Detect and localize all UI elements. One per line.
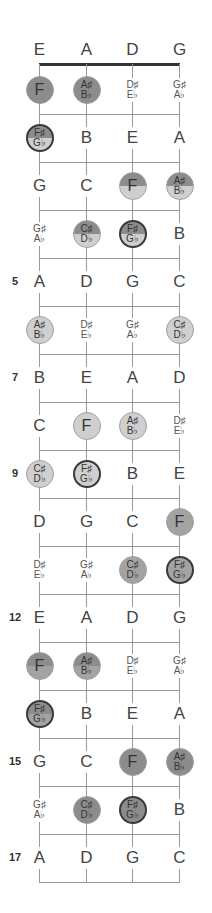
note-name: A xyxy=(174,129,185,147)
highlighted-note-dot: F xyxy=(73,412,101,440)
note-cell: B xyxy=(115,456,151,492)
note-cell: E xyxy=(22,600,58,636)
highlighted-note-dot: C♯D♭ xyxy=(73,796,101,824)
note-label-group: C xyxy=(80,751,92,773)
fret-line-7 xyxy=(39,402,180,403)
note-cell: F♯G♭ xyxy=(22,696,58,732)
note-cell: G♯A♭ xyxy=(115,312,151,348)
note-name: E xyxy=(127,129,138,147)
note-cell: A xyxy=(22,264,58,300)
note-cell: A xyxy=(115,360,151,396)
note-name-enharmonic: A♭ xyxy=(34,810,46,820)
note-label-group: B xyxy=(127,463,138,485)
note-name-enharmonic: G♭ xyxy=(126,810,139,820)
note-label-group: G♯A♭ xyxy=(80,558,93,582)
note-label-group: A xyxy=(174,127,185,149)
highlighted-note-dot: A♯B♭ xyxy=(73,652,101,680)
note-name-enharmonic: G♭ xyxy=(33,714,46,724)
highlighted-note-dot: F xyxy=(26,652,54,680)
note-name: B xyxy=(81,705,92,723)
note-name-enharmonic: B♭ xyxy=(34,330,46,340)
note-label-group: G xyxy=(126,847,139,869)
note-name: G xyxy=(33,177,46,195)
note-cell: G♯A♭ xyxy=(162,72,198,108)
note-label-group: E xyxy=(81,367,92,389)
fret-line-15 xyxy=(39,786,180,787)
note-cell: B xyxy=(162,216,198,252)
note-label-group: D xyxy=(126,39,138,61)
fret-line-5 xyxy=(39,306,180,307)
note-cell: D♯E♭ xyxy=(69,312,105,348)
highlighted-note-dot: A♯B♭ xyxy=(166,172,194,200)
note-cell: G xyxy=(22,168,58,204)
note-label-group: D♯E♭ xyxy=(33,558,45,582)
note-label-group: G♯A♭ xyxy=(126,318,139,342)
note-cell: D xyxy=(69,840,105,876)
note-name: F xyxy=(175,513,185,531)
note-cell: D xyxy=(22,504,58,540)
highlighted-note-dot: C♯D♭ xyxy=(119,556,147,584)
note-name-enharmonic: A♭ xyxy=(81,570,93,580)
fret-line-2 xyxy=(39,162,180,163)
note-label-group: D♯E♭ xyxy=(80,318,92,342)
highlighted-note-dot: F xyxy=(119,172,147,200)
note-label-group: E xyxy=(174,463,185,485)
highlighted-note-dot: F♯G♭ xyxy=(119,220,147,248)
note-name: C xyxy=(33,417,45,435)
note-name-enharmonic: B♭ xyxy=(81,666,93,676)
note-name-enharmonic: B♭ xyxy=(81,90,93,100)
note-cell: F xyxy=(22,648,58,684)
note-name: A xyxy=(34,273,45,291)
note-name: E xyxy=(34,609,45,627)
highlighted-note-dot: A♯B♭ xyxy=(119,412,147,440)
note-name: C xyxy=(173,849,185,867)
note-name: C xyxy=(80,753,92,771)
note-label-group: A xyxy=(174,703,185,725)
note-cell: D xyxy=(162,360,198,396)
note-name: A xyxy=(127,369,138,387)
note-cell: D xyxy=(69,264,105,300)
note-label-group: E xyxy=(127,703,138,725)
note-label-group: D xyxy=(173,367,185,389)
note-name-enharmonic: E♭ xyxy=(127,90,139,100)
note-cell: A♯B♭ xyxy=(162,168,198,204)
note-cell: B xyxy=(162,792,198,828)
note-cell: F xyxy=(115,168,151,204)
note-cell: F♯G♭ xyxy=(69,456,105,492)
note-name-enharmonic: D♭ xyxy=(80,810,92,820)
note-name: D xyxy=(33,513,45,531)
highlighted-note-dot: F xyxy=(119,748,147,776)
note-name: G xyxy=(173,609,186,627)
fret-line-4 xyxy=(39,258,180,259)
note-cell: G xyxy=(162,600,198,636)
note-name-enharmonic: B♭ xyxy=(174,762,186,772)
note-name: F xyxy=(128,753,138,771)
note-name: E xyxy=(174,465,185,483)
note-label-group: D♯E♭ xyxy=(173,414,185,438)
note-cell: C xyxy=(162,840,198,876)
note-label-group: B xyxy=(34,367,45,389)
note-name-enharmonic: E♭ xyxy=(34,570,46,580)
note-name: G xyxy=(80,513,93,531)
note-name-enharmonic: B♭ xyxy=(127,426,139,436)
note-label-group: E xyxy=(127,127,138,149)
note-name: B xyxy=(34,369,45,387)
note-label-group: A xyxy=(34,847,45,869)
note-cell: A♯B♭ xyxy=(22,312,58,348)
highlighted-note-dot: C♯D♭ xyxy=(26,460,54,488)
note-cell: C xyxy=(22,408,58,444)
note-name: F xyxy=(128,177,138,195)
fret-line-17 xyxy=(39,882,180,883)
note-cell: F xyxy=(69,408,105,444)
note-label-group: G♯A♭ xyxy=(33,798,46,822)
note-name-enharmonic: E♭ xyxy=(81,330,93,340)
note-cell: A xyxy=(69,600,105,636)
highlighted-note-dot: F♯G♭ xyxy=(26,124,54,152)
note-cell: C xyxy=(69,744,105,780)
note-name-enharmonic: A♭ xyxy=(34,234,46,244)
note-label-group: C xyxy=(33,415,45,437)
note-name-enharmonic: E♭ xyxy=(174,426,186,436)
note-label-group: B xyxy=(81,127,92,149)
note-label-group: D♯E♭ xyxy=(126,654,138,678)
note-name: D xyxy=(126,41,138,59)
